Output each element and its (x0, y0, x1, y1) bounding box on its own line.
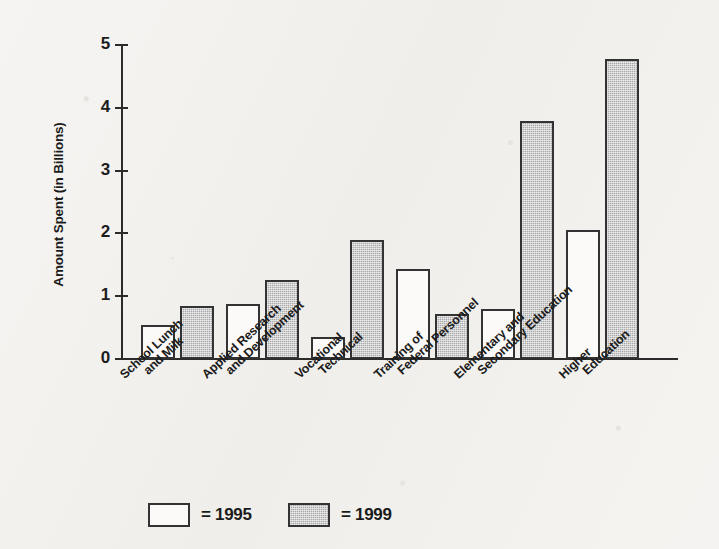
y-axis-tick-label: 2 (84, 222, 110, 242)
y-axis-tick (115, 232, 128, 234)
bar-1999-group-6 (605, 59, 639, 359)
y-axis-tick-label: 5 (84, 34, 110, 54)
legend-item-1995: = 1995 (148, 503, 252, 527)
y-axis-tick-label: 1 (84, 285, 110, 305)
legend-label-1995: = 1995 (201, 505, 252, 525)
legend-item-1999: = 1999 (288, 503, 392, 527)
y-axis-line (121, 45, 123, 359)
bar-chart: Amount Spent (in Billions) 012345 School… (0, 0, 719, 549)
legend-swatch-1995 (148, 503, 190, 527)
y-axis-tick (115, 358, 128, 360)
legend-label-1999: = 1999 (341, 505, 392, 525)
y-axis-tick-label: 3 (84, 160, 110, 180)
y-axis-tick (115, 295, 128, 297)
y-axis-tick (115, 170, 128, 172)
y-axis-tick-label: 0 (84, 348, 110, 368)
y-axis-title: Amount Spent (in Billions) (51, 85, 66, 325)
legend-swatch-1999 (288, 503, 330, 527)
y-axis-tick (115, 107, 128, 109)
y-axis-tick-label: 4 (84, 97, 110, 117)
y-axis-tick (115, 44, 128, 46)
